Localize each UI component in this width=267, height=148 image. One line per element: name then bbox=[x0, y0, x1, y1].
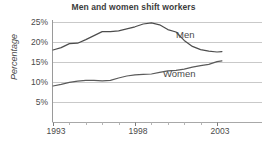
series-line-men bbox=[53, 23, 222, 52]
chart-figure: Men and women shift workers Percentage 2… bbox=[0, 0, 267, 148]
plot-area bbox=[0, 0, 267, 148]
series-lines bbox=[53, 23, 222, 86]
x-axis-ticks bbox=[54, 123, 218, 127]
